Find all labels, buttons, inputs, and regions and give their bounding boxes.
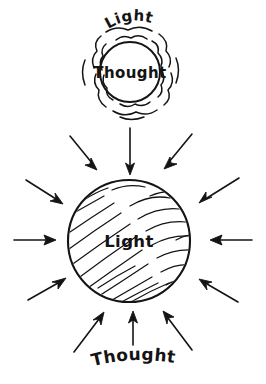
arrow-lower-left (28, 278, 66, 300)
arrow-left (14, 235, 56, 245)
arrow-bottom-right-head (163, 311, 174, 324)
concept-diagram: Thought Light (0, 0, 266, 384)
arrow-right (210, 235, 252, 245)
arrow-bottom-left-head (93, 312, 104, 325)
thought-inner-label: Thought (93, 64, 166, 82)
arrow-upper-left-head (50, 193, 63, 204)
arrow-upper-left (26, 180, 63, 204)
descending-arrow (126, 128, 135, 175)
arrow-right-head (210, 235, 222, 245)
bottom-light-unit: Light (68, 180, 196, 307)
top-thought-light-unit: Thought Light (83, 6, 179, 119)
arrow-upper-right (199, 178, 239, 203)
light-main-label: Light (104, 232, 154, 251)
arrow-left-head (44, 235, 56, 245)
arrow-lower-right (199, 279, 238, 302)
arrow-top-left-head (85, 158, 97, 170)
arrow-bottom-center (129, 311, 138, 345)
arrow-top-right (164, 134, 192, 169)
arrow-lower-right-head (199, 279, 212, 290)
thought-bottom-label-text: Thought (89, 344, 177, 370)
arrow-top-left (70, 136, 97, 170)
thought-bottom-label: Thought (89, 344, 177, 370)
diagram-canvas: Thought Light (0, 0, 266, 384)
arrow-upper-right-head (199, 192, 212, 203)
arrow-top-right-head (164, 157, 177, 169)
arrow-bottom-right (163, 311, 192, 350)
arrow-bottom-left (74, 312, 104, 352)
arrow-lower-left-head (52, 278, 66, 289)
